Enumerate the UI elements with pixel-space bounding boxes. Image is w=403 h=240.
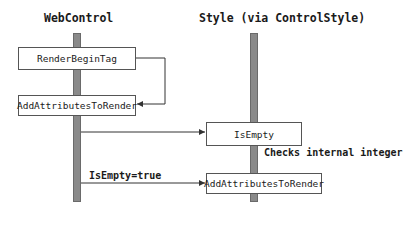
checks-internal-integer-note: Checks internal integer bbox=[264, 147, 402, 158]
render-begin-tag-box: RenderBeginTag bbox=[18, 47, 136, 70]
is-empty-box: IsEmpty bbox=[206, 122, 302, 146]
self-call-arrow bbox=[136, 58, 165, 104]
is-empty-true-label: IsEmpty=true bbox=[89, 170, 161, 181]
add-attributes-right-box: AddAttributesToRender bbox=[206, 173, 322, 194]
add-attributes-left-box: AddAttributesToRender bbox=[18, 95, 136, 116]
